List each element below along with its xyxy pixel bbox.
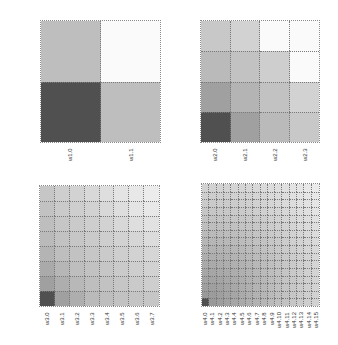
- heatmap-cell: [304, 260, 311, 268]
- heatmap-cell: [275, 268, 282, 276]
- x-tick-label: w3.4: [104, 312, 110, 325]
- heatmap-cell: [282, 298, 289, 306]
- heatmap-cell: [246, 230, 253, 238]
- heatmap-cell: [253, 199, 260, 207]
- heatmap-cell: [100, 276, 115, 291]
- heatmap-cell: [290, 21, 320, 51]
- heatmap-cell: [246, 276, 253, 284]
- heatmap-cell: [282, 207, 289, 215]
- heatmap-cell: [85, 261, 100, 276]
- x-tick-label: w3.5: [119, 312, 125, 325]
- heatmap-cell: [224, 268, 231, 276]
- heatmap-cell: [231, 245, 238, 253]
- heatmap-cell: [201, 51, 231, 81]
- heatmap-cell: [275, 245, 282, 253]
- x-tick-label: w4.8: [261, 312, 267, 325]
- heatmap-cell: [41, 21, 101, 82]
- heatmap-cell: [297, 298, 304, 306]
- heatmap-cell: [268, 283, 275, 291]
- heatmap-cell: [297, 268, 304, 276]
- heatmap-cell: [297, 260, 304, 268]
- heatmap-cell: [297, 199, 304, 207]
- heatmap-cell: [268, 260, 275, 268]
- heatmap-cell: [312, 276, 319, 284]
- heatmap-cell: [55, 201, 70, 216]
- heatmap-cell: [129, 186, 144, 201]
- heatmap-cell: [100, 231, 115, 246]
- heatmap-cell: [282, 184, 289, 192]
- heatmap-cell: [261, 268, 268, 276]
- heatmap-cell: [275, 276, 282, 284]
- heatmap-cell: [239, 291, 246, 299]
- heatmap-cell: [312, 222, 319, 230]
- heatmap-cell: [231, 82, 261, 112]
- heatmap-cell: [246, 283, 253, 291]
- heatmap-cell: [85, 231, 100, 246]
- heatmap-cell: [239, 199, 246, 207]
- heatmap-cell: [217, 230, 224, 238]
- heatmap-cell: [275, 291, 282, 299]
- x-tick-label: w4.9: [269, 312, 275, 325]
- heatmap-cell: [246, 215, 253, 223]
- heatmap-cell: [282, 268, 289, 276]
- heatmap-cell: [224, 230, 231, 238]
- heatmap-cell: [217, 283, 224, 291]
- heatmap-cell: [224, 253, 231, 261]
- heatmap-cell: [253, 283, 260, 291]
- heatmap-cell: [239, 237, 246, 245]
- heatmap-cell: [290, 51, 320, 81]
- heatmap-cell: [253, 260, 260, 268]
- heatmap-cell: [224, 184, 231, 192]
- heatmap-cell: [85, 186, 100, 201]
- x-tick-label: w4.12: [291, 312, 297, 328]
- heatmap-cell: [85, 216, 100, 231]
- heatmap-cell: [231, 207, 238, 215]
- heatmap-cell: [85, 291, 100, 306]
- heatmap-cell: [282, 260, 289, 268]
- heatmap-cell: [312, 291, 319, 299]
- heatmap-cell: [217, 298, 224, 306]
- heatmap-grid: [200, 20, 320, 143]
- heatmap-cell: [129, 261, 144, 276]
- heatmap-cell: [70, 261, 85, 276]
- heatmap-cell: [202, 253, 209, 261]
- heatmap-cell: [217, 222, 224, 230]
- heatmap-cell: [304, 268, 311, 276]
- heatmap-cell: [290, 184, 297, 192]
- heatmap-cell: [304, 291, 311, 299]
- heatmap-cell: [261, 230, 268, 238]
- heatmap-cell: [231, 199, 238, 207]
- heatmap-cell: [100, 201, 115, 216]
- heatmap-cell: [202, 283, 209, 291]
- heatmap-cell: [275, 230, 282, 238]
- heatmap-cell: [231, 268, 238, 276]
- heatmap-grid: [39, 185, 160, 307]
- heatmap-cell: [297, 207, 304, 215]
- heatmap-cell: [129, 216, 144, 231]
- heatmap-cell: [261, 245, 268, 253]
- heatmap-cell: [268, 268, 275, 276]
- heatmap-cell: [304, 207, 311, 215]
- heatmap-cell: [85, 276, 100, 291]
- heatmap-cell: [100, 261, 115, 276]
- heatmap-cell: [85, 201, 100, 216]
- heatmap-cell: [261, 291, 268, 299]
- heatmap-cell: [55, 231, 70, 246]
- heatmap-cell: [253, 237, 260, 245]
- heatmap-cell: [202, 199, 209, 207]
- x-tick-label: w4.2: [217, 312, 223, 325]
- heatmap-cell: [231, 253, 238, 261]
- heatmap-cell: [260, 112, 290, 142]
- heatmap-cell: [239, 276, 246, 284]
- heatmap-cell: [85, 246, 100, 261]
- heatmap-cell: [144, 231, 159, 246]
- heatmap-cell: [304, 215, 311, 223]
- heatmap-cell: [209, 192, 216, 200]
- heatmap-cell: [202, 222, 209, 230]
- heatmap-cell: [70, 201, 85, 216]
- heatmap-cell: [100, 186, 115, 201]
- heatmap-cell: [202, 291, 209, 299]
- heatmap-cell: [290, 283, 297, 291]
- heatmap-cell: [114, 246, 129, 261]
- heatmap-cell: [239, 268, 246, 276]
